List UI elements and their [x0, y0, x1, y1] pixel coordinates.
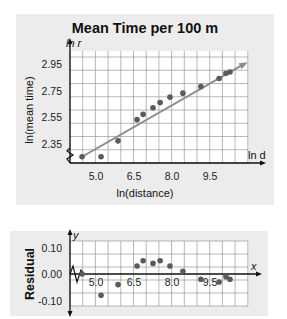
svg-text:-0.10: -0.10 — [38, 295, 62, 307]
residual-y-label: Residual — [23, 248, 37, 300]
x-axis-label: ln(distance) — [117, 187, 174, 199]
svg-text:2.95: 2.95 — [42, 58, 63, 70]
x-axis-name: ln d — [248, 149, 266, 161]
svg-text:9.5: 9.5 — [203, 170, 218, 182]
svg-text:9.5: 9.5 — [203, 276, 218, 288]
svg-text:5.0: 5.0 — [89, 170, 104, 182]
svg-text:2.55: 2.55 — [42, 111, 63, 123]
svg-text:6.5: 6.5 — [127, 276, 142, 288]
residual-x-axis-name: x — [250, 260, 257, 272]
svg-text:0.00: 0.00 — [42, 268, 63, 280]
svg-text:2.35: 2.35 — [42, 138, 63, 150]
y-axis-name: ln r — [66, 37, 83, 49]
chart-title: Mean Time per 100 m — [72, 20, 218, 36]
svg-text:6.5: 6.5 — [127, 170, 142, 182]
svg-text:8.0: 8.0 — [165, 170, 180, 182]
svg-text:8.0: 8.0 — [165, 276, 180, 288]
y-axis-label: ln(mean time) — [23, 76, 35, 143]
main-grid — [70, 51, 248, 163]
charts-svg: Mean Time per 100 m ln r ln d ln(distanc… — [0, 0, 287, 319]
residual-y-axis-name: y — [72, 229, 80, 241]
svg-text:5.0: 5.0 — [89, 276, 104, 288]
svg-text:2.75: 2.75 — [42, 85, 63, 97]
svg-text:0.10: 0.10 — [42, 242, 63, 254]
